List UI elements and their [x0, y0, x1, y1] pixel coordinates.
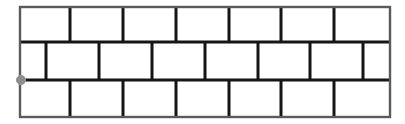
brick-r0-c3: [176, 7, 229, 42]
brick-wall-figure: [0, 0, 405, 124]
brick-r1-c6: [310, 42, 363, 80]
brick-r1-c2: [99, 42, 152, 80]
brick-r1-c1: [46, 42, 99, 80]
brick-r2-c3: [176, 80, 229, 117]
brick-r2-c0: [20, 80, 70, 117]
brick-r1-c7: [363, 42, 390, 80]
brick-r0-c1: [70, 7, 123, 42]
brick-r2-c4: [229, 80, 281, 117]
brick-r0-c6: [334, 7, 390, 42]
brick-r1-c3: [152, 42, 205, 80]
brick-r0-c2: [123, 7, 176, 42]
brick-r1-c0: [20, 42, 46, 80]
brick-r2-c2: [123, 80, 176, 117]
origin-point-marker: [16, 75, 25, 84]
diagram-canvas: [0, 0, 405, 124]
brick-r0-c0: [20, 7, 70, 42]
brick-r1-c4: [205, 42, 258, 80]
brick-r2-c5: [281, 80, 334, 117]
brick-r0-c5: [281, 7, 334, 42]
origin-point-dot: [16, 75, 25, 84]
brick-r2-c6: [334, 80, 390, 117]
brick-r1-c5: [258, 42, 310, 80]
brick-r0-c4: [229, 7, 281, 42]
brick-wall-group: [20, 7, 390, 117]
brick-r2-c1: [70, 80, 123, 117]
